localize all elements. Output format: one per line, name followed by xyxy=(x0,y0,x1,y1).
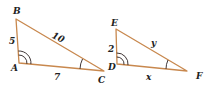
side-label-ef: y xyxy=(150,38,157,48)
side-label-ab: 5 xyxy=(9,36,15,46)
vertex-label-e: E xyxy=(110,18,118,28)
vertex-label-d: D xyxy=(107,62,116,72)
side-label-de: 2 xyxy=(107,44,114,54)
triangle-def-outline xyxy=(116,29,187,71)
angle-c-arc xyxy=(80,59,83,69)
side-label-df: x xyxy=(145,72,152,82)
vertex-label-f: F xyxy=(195,71,203,81)
triangle-def: E D F 2 y x xyxy=(107,18,203,82)
vertex-label-b: B xyxy=(12,6,21,16)
vertex-label-a: A xyxy=(10,63,18,73)
side-label-bc: 10 xyxy=(50,30,66,45)
side-label-ac: 7 xyxy=(54,72,61,82)
triangle-abc: B A C 5 10 7 xyxy=(9,6,106,85)
triangle-abc-outline xyxy=(16,19,104,71)
similar-triangles-diagram: B A C 5 10 7 E D F 2 y x xyxy=(0,0,211,90)
angle-f-arc xyxy=(166,60,168,69)
vertex-label-c: C xyxy=(98,75,106,85)
